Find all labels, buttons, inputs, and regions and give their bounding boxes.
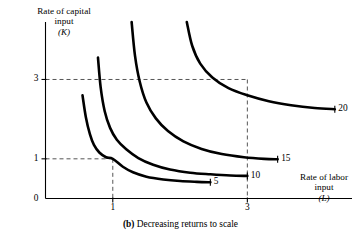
caption-text: Decreasing returns to scale	[137, 219, 238, 229]
x-axis-title-line1: Rate of labor	[300, 172, 348, 182]
curve-label-15: 15	[281, 153, 290, 164]
curve-label-20: 20	[338, 103, 347, 114]
y-tick-label-0: 0	[27, 193, 39, 204]
x-axis-title-line2: input	[315, 182, 334, 192]
curve-label-10: 10	[251, 170, 260, 181]
isoquant-curve-5	[83, 95, 211, 182]
y-axis-title-symbol: (K)	[58, 27, 70, 37]
y-tick-label-3: 3	[27, 73, 39, 84]
curve-label-5: 5	[214, 176, 219, 187]
isoquant-curve-10	[98, 58, 247, 176]
y-axis-title-line1: Rate of capital	[37, 6, 91, 16]
y-axis-title: Rate of capital input (K)	[12, 6, 116, 37]
isoquant-figure: Rate of capital input (K) Rate of labor …	[0, 0, 361, 240]
isoquant-curve-15	[132, 22, 278, 159]
x-axis-title: Rate of labor input (L)	[288, 172, 360, 203]
x-axis-title-symbol: (L)	[318, 193, 329, 203]
isoquant-curves	[83, 22, 335, 182]
y-tick-label-1: 1	[27, 153, 39, 164]
x-tick-label-1: 1	[107, 202, 119, 213]
y-axis-title-line2: input	[55, 16, 74, 26]
x-tick-label-3: 3	[241, 202, 253, 213]
figure-caption: (b) Decreasing returns to scale	[0, 219, 361, 229]
caption-prefix: (b)	[123, 219, 134, 229]
isoquant-curve-20	[187, 22, 335, 109]
